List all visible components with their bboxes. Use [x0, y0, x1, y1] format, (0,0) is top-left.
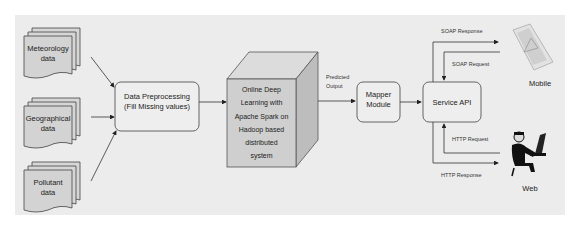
web-label: Web	[510, 184, 550, 194]
mapper-label: Mapper Module	[357, 90, 400, 110]
mobile-label: Mobile	[520, 79, 560, 89]
http-request-label: HTTP Request	[452, 136, 488, 142]
learning-line: Learning with	[227, 96, 296, 109]
source-line2: data	[24, 54, 72, 64]
person-at-computer-icon	[512, 132, 546, 176]
learning-label: Online Deep Learning with Apache Spark o…	[227, 83, 296, 163]
arrow-http-response	[433, 122, 498, 163]
arrow-meteorology-to-preprocessing	[91, 57, 114, 87]
service-api-label: Service API	[423, 98, 481, 108]
predicted-output-line2: Output	[326, 82, 349, 91]
learning-line: system	[227, 149, 296, 162]
learning-line: distributed	[227, 136, 296, 149]
smartphone-warning-icon	[513, 24, 553, 70]
source-line1: Pollutant	[24, 178, 72, 188]
predicted-output-label: Predicted Output	[326, 73, 349, 91]
arrow-pollutant-to-preprocessing	[91, 131, 116, 181]
source-label-geographical: Geographical data	[24, 114, 72, 134]
learning-line: Apache Spark on	[227, 110, 296, 123]
learning-line: Online Deep	[227, 83, 296, 96]
soap-response-label: SOAP Response	[441, 28, 482, 34]
mapper-line1: Mapper	[357, 90, 400, 100]
predicted-output-line1: Predicted	[326, 73, 349, 82]
source-line1: Meteorology	[24, 44, 72, 54]
preprocessing-line2: (Fill Missing values)	[115, 102, 199, 112]
preprocessing-label: Data Preprocessing (Fill Missing values)	[115, 92, 199, 112]
source-label-pollutant: Pollutant data	[24, 178, 72, 198]
soap-request-label: SOAP Request	[452, 61, 489, 67]
source-line2: data	[24, 124, 72, 134]
mapper-line2: Module	[357, 100, 400, 110]
http-response-label: HTTP Response	[441, 172, 482, 178]
source-line1: Geographical	[24, 114, 72, 124]
source-label-meteorology: Meteorology data	[24, 44, 72, 64]
learning-line: Hadoop based	[227, 123, 296, 136]
source-line2: data	[24, 188, 72, 198]
preprocessing-line1: Data Preprocessing	[115, 92, 199, 102]
